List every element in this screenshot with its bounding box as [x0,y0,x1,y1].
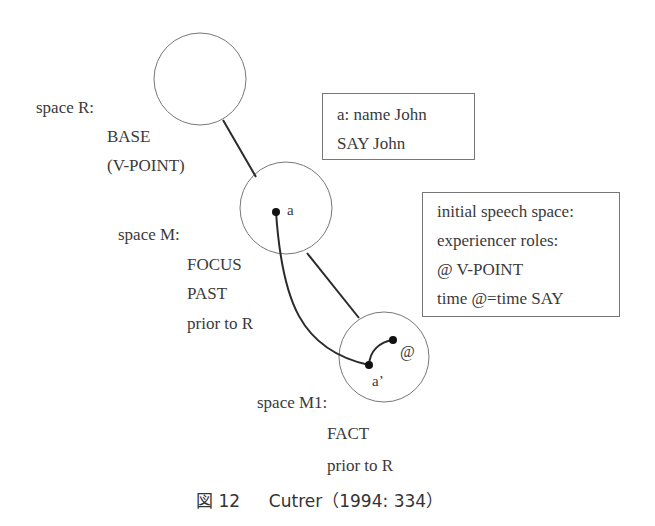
speech-space-box: initial speech space: experiencer roles:… [422,192,620,317]
space-m-line-1: FOCUS [187,256,242,273]
space-r-line-2: (V-POINT) [107,157,185,174]
name-box-line-1: a: name John [337,106,427,123]
space-m-circle [240,162,332,254]
space-m1-circle [339,312,429,402]
element-a-label: a [287,203,294,218]
connector-r-to-m [223,120,256,177]
name-info-box: a: name John SAY John [322,93,475,160]
name-box-line-2: SAY John [337,135,405,152]
element-a-prime-dot [365,361,373,369]
space-m-title: space M: [118,226,180,243]
viewpoint-dot [389,336,397,344]
space-m-line-3: prior to R [187,315,253,332]
space-m1-line-2: prior to R [327,457,393,474]
figure-caption: 図 12 Cutrer（1994: 334） [196,493,443,510]
link-a-prime-to-viewpoint [369,340,393,365]
speech-box-line-1: initial speech space: [437,203,574,220]
space-m-line-2: PAST [187,285,227,302]
space-r-line-1: BASE [107,128,150,145]
speech-box-line-3: @ V-POINT [437,261,523,278]
speech-box-line-2: experiencer roles: [437,232,558,249]
connector-m-to-m1 [307,253,359,318]
mental-spaces-diagram: a a’ @ space R: BASE (V-POINT) space M: … [0,0,655,526]
space-m1-line-1: FACT [327,425,369,442]
space-r-circle [154,33,246,125]
figure-label: 図 12 [196,493,240,510]
space-m1-title: space M1: [257,394,327,411]
speech-box-line-4: time @=time SAY [437,290,564,307]
counterpart-link-a-to-a-prime [276,212,369,365]
space-r-title: space R: [36,99,94,116]
element-a-prime-label: a’ [372,374,384,389]
figure-citation: Cutrer（1994: 334） [269,493,443,510]
viewpoint-label: @ [400,344,415,360]
element-a-dot [272,208,280,216]
